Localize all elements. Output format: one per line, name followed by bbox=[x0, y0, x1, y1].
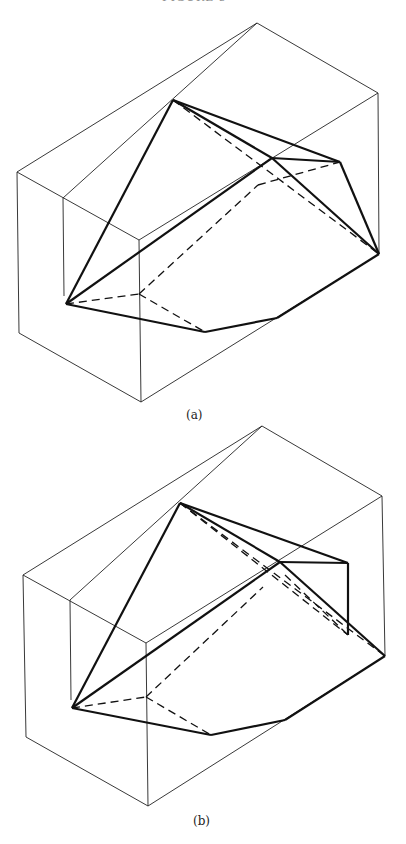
box-edge-b bbox=[262, 426, 382, 496]
hidden-edge-b bbox=[285, 575, 348, 635]
box-edge-b bbox=[382, 496, 385, 656]
hidden-edge-b bbox=[146, 587, 263, 697]
box-edge-a bbox=[63, 198, 64, 296]
box-edge-a bbox=[17, 172, 139, 240]
box-edge-a bbox=[139, 240, 141, 402]
box-edge-a bbox=[63, 23, 257, 198]
visible-edge-b bbox=[280, 562, 348, 563]
visible-edge-b bbox=[280, 562, 385, 656]
visible-edge-a bbox=[173, 100, 340, 162]
visible-edge-a bbox=[66, 100, 173, 304]
box-edge-a bbox=[378, 93, 379, 254]
box-edge-a bbox=[17, 23, 257, 172]
visible-edge-b bbox=[285, 656, 385, 720]
visible-edge-b bbox=[72, 708, 211, 735]
hidden-edge-a bbox=[173, 100, 379, 254]
visible-edge-a bbox=[66, 304, 205, 332]
caption-a: (a) bbox=[186, 408, 203, 422]
visible-edge-a bbox=[277, 254, 379, 318]
polyhedra-in-boxes-diagram bbox=[0, 0, 406, 844]
box-edge-b bbox=[146, 643, 148, 806]
box-edge-a bbox=[19, 333, 141, 402]
box-edge-b bbox=[23, 426, 262, 575]
box-edge-b bbox=[70, 426, 262, 600]
visible-edge-a bbox=[173, 100, 272, 158]
box-edge-b bbox=[23, 575, 26, 737]
box-edge-a bbox=[17, 172, 19, 333]
visible-edge-b bbox=[211, 720, 285, 735]
visible-edge-a bbox=[66, 158, 272, 304]
hidden-edge-b bbox=[180, 503, 385, 656]
visible-edge-a bbox=[340, 162, 379, 254]
box-edge-b bbox=[26, 737, 148, 806]
visible-edge-a bbox=[205, 318, 277, 332]
box-edge-b bbox=[23, 575, 146, 643]
hidden-edge-b bbox=[72, 697, 146, 708]
box-edge-a bbox=[257, 23, 378, 93]
visible-edge-b bbox=[72, 562, 280, 708]
visible-edge-b bbox=[72, 503, 180, 708]
caption-b: (b) bbox=[193, 814, 210, 828]
box-edge-b bbox=[70, 600, 71, 700]
visible-edge-a bbox=[272, 158, 379, 254]
